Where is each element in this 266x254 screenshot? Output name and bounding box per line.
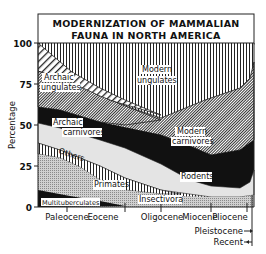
label-multituberculates: Multituberculates [42,199,100,207]
label-modern-ungulates-1: Modern [142,65,172,74]
label-primates: Primates [94,180,129,189]
y-tick-25: 25 [19,162,32,172]
label-archaic-ungulates-2: ungulates [41,83,81,92]
y-tick-100: 100 [13,39,32,49]
x-label-eocene: Eocene [87,212,118,222]
label-rodents: Rodents [181,172,213,181]
x-label-pliocene: Pliocene [212,212,248,222]
y-tick-0: 0 [26,203,32,213]
chart-title-line2: FAUNA IN NORTH AMERICA [71,30,221,41]
chart-figure: MODERNIZATION OF MAMMALIAN FAUNA IN NORT… [0,0,266,254]
label-modern-ungulates-2: ungulates [137,76,177,85]
y-tick-50: 50 [19,121,32,131]
y-axis-label: Percentage [7,101,17,149]
label-modern-carnivores-2: carnivores [172,137,214,146]
x-label-oligocene: Oligocene [141,212,184,222]
x-label-recent: Recent [214,237,244,247]
y-tick-75: 75 [19,80,32,90]
label-modern-carnivores-1: Modern [177,127,207,136]
label-archaic-carnivores-2: carnivores [63,128,105,137]
chart-title-line1: MODERNIZATION OF MAMMALIAN [52,18,239,29]
label-insectivora: Insectivora [139,195,183,204]
label-archaic-ungulates-1: Archaic [44,73,74,82]
y-ticks [34,43,38,207]
area-chart: MODERNIZATION OF MAMMALIAN FAUNA IN NORT… [0,0,266,254]
x-label-pleistocene: Pleistocene [194,226,243,236]
label-archaic-carnivores-1: Archaic [53,118,83,127]
x-label-paleocene: Paleocene [45,212,88,222]
